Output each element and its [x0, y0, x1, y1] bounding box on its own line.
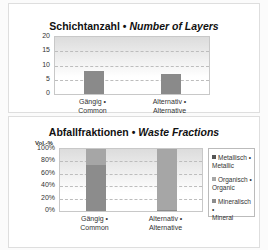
bar — [84, 71, 104, 94]
title-en: Number of Layers — [129, 20, 218, 32]
gridline — [60, 199, 202, 200]
y-tick-label: 20 — [26, 32, 50, 39]
y-tick-label: 5 — [26, 75, 50, 82]
legend-swatch — [212, 199, 216, 203]
y-tick-label: 40% — [31, 181, 55, 188]
legend-swatch — [212, 177, 216, 181]
y-tick-label: 20% — [31, 194, 55, 201]
gridline — [55, 66, 209, 67]
x-axis-label: Alternativ •Alternative — [140, 97, 200, 115]
layers-chart-panel: Schichtanzahl • Number of Layers 2015105… — [8, 3, 260, 113]
bar-segment — [157, 149, 177, 210]
title-de: Schichtanzahl — [49, 20, 120, 32]
legend-item: Metallisch •Metallic — [212, 154, 251, 170]
y-tick-label: 0% — [31, 206, 55, 213]
y-tick-label: 100% — [31, 144, 55, 151]
bar-segment — [86, 149, 106, 165]
y-tick-label: 10 — [26, 61, 50, 68]
gridline — [55, 80, 209, 81]
waste-legend: Metallisch •MetallicOrganisch •OrganicMi… — [208, 148, 255, 217]
title-de: Abfallfraktionen — [49, 126, 129, 138]
title-en: Waste Fractions — [138, 126, 219, 138]
x-axis-label: Alternativ •Alternative — [136, 214, 196, 232]
legend-item: Organisch •Organic — [212, 176, 252, 192]
gridline — [60, 186, 202, 187]
y-tick-label: 80% — [31, 156, 55, 163]
bar-segment — [86, 165, 106, 212]
waste-plot-area — [59, 148, 203, 212]
y-tick-label: 60% — [31, 169, 55, 176]
gridline — [60, 174, 202, 175]
legend-swatch — [212, 155, 216, 159]
y-tick-label: 15 — [26, 46, 50, 53]
layers-chart-title: Schichtanzahl • Number of Layers — [9, 20, 259, 32]
gridline — [60, 161, 202, 162]
x-axis-label: Gängig •Common — [65, 214, 125, 232]
bar-segment — [157, 210, 177, 211]
waste-chart-title: Abfallfraktionen • Waste Fractions — [9, 126, 259, 138]
gridline — [55, 51, 209, 52]
legend-item: Mineralisch •Mineral — [212, 198, 254, 222]
waste-chart-panel: Abfallfraktionen • Waste Fractions Vol.-… — [8, 116, 260, 248]
layers-plot-area — [54, 36, 210, 95]
bar — [161, 74, 181, 94]
y-tick-label: 0 — [26, 89, 50, 96]
x-axis-label: Gängig •Common — [63, 97, 123, 115]
